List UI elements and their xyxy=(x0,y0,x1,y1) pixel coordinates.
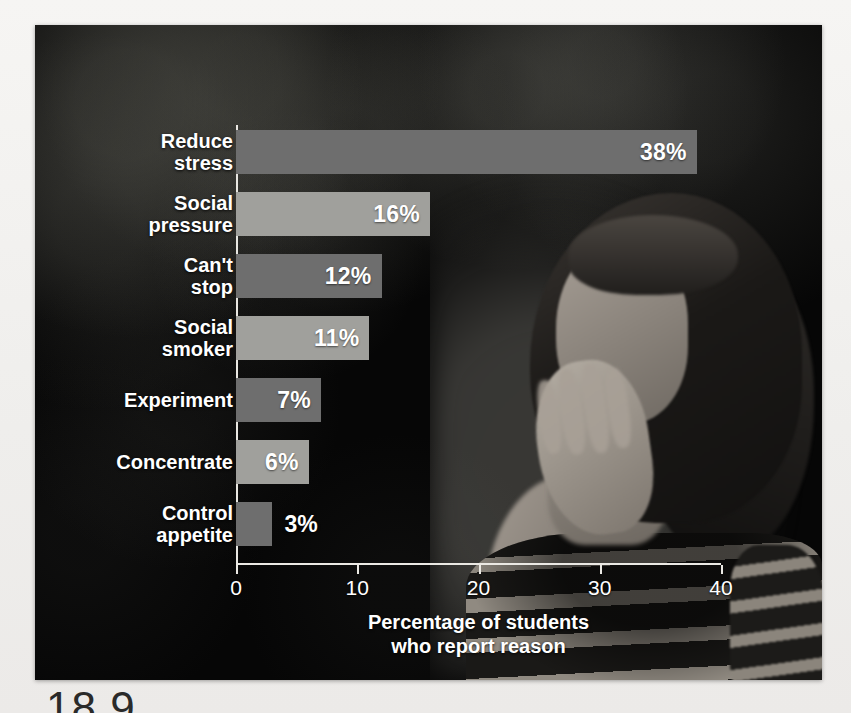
x-axis-tick-label: 10 xyxy=(346,576,369,600)
bar-value-label: 38% xyxy=(640,139,687,166)
bar-row: 7% xyxy=(236,378,321,422)
x-axis-tick xyxy=(479,565,481,574)
bar-value-label: 11% xyxy=(314,325,359,352)
figure-photograph: 010203040 38%16%12%11%7%6%3% Reduce stre… xyxy=(35,25,822,680)
category-label: Can't stop xyxy=(184,255,233,298)
category-label: Control appetite xyxy=(156,503,233,546)
x-axis-tick-label: 30 xyxy=(588,576,611,600)
x-axis-tick xyxy=(721,565,723,574)
bar-value-label: 7% xyxy=(277,387,311,414)
category-label: Reduce stress xyxy=(161,131,233,174)
bar xyxy=(236,502,272,546)
bar-row: 6% xyxy=(236,440,309,484)
x-axis-tick-label: 0 xyxy=(230,576,242,600)
bar-value-label: 3% xyxy=(284,511,318,538)
bar-chart: 010203040 38%16%12%11%7%6%3% Reduce stre… xyxy=(35,25,822,680)
bar-row: 3% xyxy=(236,502,272,546)
x-axis-caption: Percentage of students who report reason xyxy=(236,611,721,658)
bar-row: 11% xyxy=(236,316,369,360)
bar-row: 38% xyxy=(236,130,697,174)
category-label: Experiment xyxy=(124,390,233,412)
bar-row: 12% xyxy=(236,254,382,298)
figure-number: 18.9 xyxy=(46,686,136,713)
bar-value-label: 12% xyxy=(325,263,372,290)
bar-value-label: 6% xyxy=(265,449,299,476)
category-label: Social pressure xyxy=(149,193,234,236)
page-background: 010203040 38%16%12%11%7%6%3% Reduce stre… xyxy=(0,0,851,713)
x-axis-tick xyxy=(600,565,602,574)
x-axis-tick xyxy=(357,565,359,574)
bar-value-label: 16% xyxy=(373,201,420,228)
x-axis-tick-label: 20 xyxy=(467,576,490,600)
bar xyxy=(236,130,697,174)
category-label: Social smoker xyxy=(162,317,233,360)
bar-row: 16% xyxy=(236,192,430,236)
category-label: Concentrate xyxy=(116,452,233,474)
x-axis-tick-label: 40 xyxy=(709,576,732,600)
x-axis-tick xyxy=(236,565,238,574)
